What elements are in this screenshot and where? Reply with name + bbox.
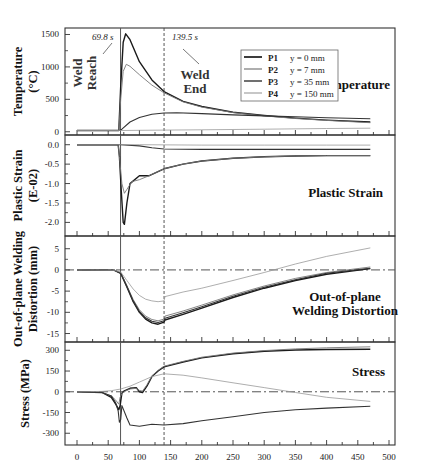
y-axis-label: (E-02) [26,169,40,202]
legend-key: P2 [268,65,278,75]
x-tick-label: 500 [382,452,396,462]
panel-stress: 3001500-150-300Stress (MPa)Stress0501001… [18,342,396,462]
y-tick-label: -300 [43,428,60,438]
weld-end-label: Weld [181,67,211,82]
y-tick-label: 150 [46,366,60,376]
y-tick-label: 0 [55,265,60,275]
y-tick-label: 5 [55,244,60,254]
y-tick-label: -2.0 [45,217,60,227]
y-tick-label: 1000 [41,62,60,72]
y-axis-label: Stress (MPa) [18,359,32,428]
y-tick-label: 500 [46,94,60,104]
y-tick-label: 300 [46,345,60,355]
y-tick-label: -0.5 [45,159,60,169]
legend-desc: y = 150 mm [290,89,334,99]
legend: P1y = 0 mmP2y = 7 mmP3y = 35 mmP4y = 150… [241,50,338,101]
y-tick-label: -5 [52,286,60,296]
y-tick-label: -15 [47,329,59,339]
x-tick-label: 450 [351,452,365,462]
panel-frame [65,342,395,445]
legend-key: P1 [268,53,278,63]
weld-reach-time: 69.8 s [92,32,114,42]
x-tick-label: 0 [75,452,80,462]
welding-chart: 050010001500Temperature(°C)Temperature0.… [0,0,430,464]
x-tick-label: 200 [195,452,209,462]
y-tick-label: 0 [55,387,60,397]
y-tick-label: -1.5 [45,198,60,208]
panel-title: Welding Distortion [292,303,399,318]
y-tick-label: 0 [55,127,60,137]
legend-key: P4 [268,89,278,99]
x-tick-label: 400 [320,452,334,462]
weld-reach-label: Reach [84,55,99,90]
legend-desc: y = 35 mm [290,77,329,87]
panel-title: Stress [352,364,385,379]
x-tick-label: 350 [289,452,303,462]
y-tick-label: -1.0 [45,179,60,189]
x-tick-label: 100 [133,452,147,462]
panel-distortion: 50-5-10-15Out-of-plane WeldingDistortion… [11,230,399,347]
y-tick-label: -150 [43,408,60,418]
weld-end-time: 139.5 s [172,32,199,42]
y-tick-label: 1500 [41,29,60,39]
legend-desc: y = 0 mm [290,53,325,63]
legend-key: P3 [268,77,278,87]
y-axis-label: Distortion (mm) [26,246,40,332]
y-tick-label: 0.0 [48,140,60,150]
y-axis-label: Out-of-plane Welding [11,230,25,347]
y-axis-label: Temperature [11,46,25,116]
y-axis-label: Plastic Strain [11,150,25,222]
y-tick-label: -10 [47,307,59,317]
chart-overlay: P1y = 0 mmP2y = 7 mmP3y = 35 mmP4y = 150… [70,32,338,101]
x-tick-label: 50 [104,452,114,462]
panel-title: Plastic Strain [308,185,384,200]
x-tick-label: 250 [226,452,240,462]
legend-desc: y = 7 mm [290,65,325,75]
y-axis-label: (°C) [26,70,40,92]
weld-reach-label: Weld [70,58,85,88]
x-tick-label: 150 [164,452,178,462]
x-tick-label: 300 [257,452,271,462]
panel-plastic-strain: 0.0-0.5-1.0-1.5-2.0Plastic Strain(E-02)P… [11,135,395,236]
weld-end-label: End [183,81,207,96]
panel-title: Out-of-plane [309,289,381,304]
